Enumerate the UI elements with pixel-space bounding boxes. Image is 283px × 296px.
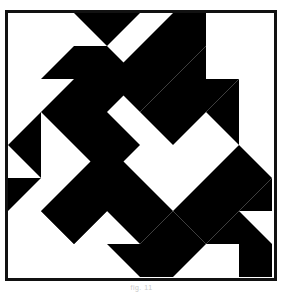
quilt-block-canvas bbox=[5, 10, 277, 281]
figure-caption: fig. 11 bbox=[0, 283, 283, 292]
figure-root: fig. 11 bbox=[0, 0, 283, 296]
quilt-block-figure bbox=[5, 10, 277, 281]
